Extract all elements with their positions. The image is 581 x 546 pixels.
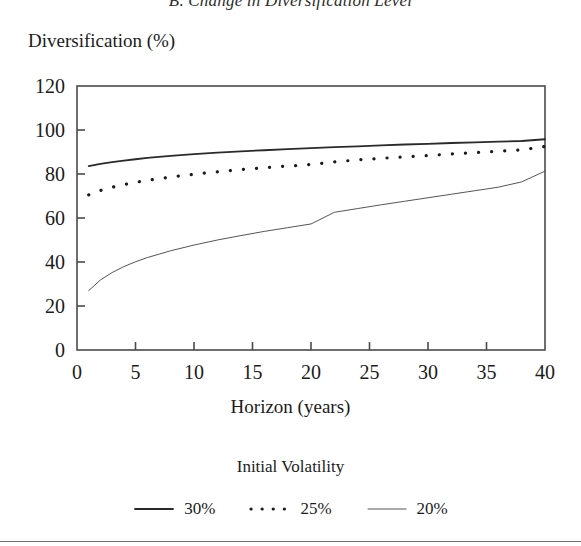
figure-panel: B. Change in Diversification Level Diver… bbox=[0, 0, 581, 546]
x-tick-label: 35 bbox=[477, 361, 497, 383]
legend-item-20pct[interactable]: 20% bbox=[366, 500, 448, 517]
legend-label: 30% bbox=[184, 500, 215, 517]
legend-item-30pct[interactable]: 30% bbox=[133, 500, 215, 517]
legend: 30%25%20% bbox=[0, 500, 581, 517]
y-tick-label: 100 bbox=[35, 119, 65, 141]
legend-label: 20% bbox=[417, 500, 448, 517]
y-tick-label: 80 bbox=[45, 163, 65, 185]
x-tick-label: 20 bbox=[301, 361, 321, 383]
legend-title: Initial Volatility bbox=[0, 457, 581, 477]
x-tick-label: 10 bbox=[184, 361, 204, 383]
x-tick-label: 15 bbox=[243, 361, 263, 383]
x-tick-label: 30 bbox=[418, 361, 438, 383]
legend-swatch-solid-thin bbox=[366, 503, 408, 515]
x-tick-label: 40 bbox=[535, 361, 555, 383]
y-tick-label: 0 bbox=[55, 339, 65, 361]
plot-frame bbox=[77, 86, 545, 350]
series-line-25pct bbox=[89, 147, 545, 195]
y-tick-label: 40 bbox=[45, 251, 65, 273]
x-tick-label: 0 bbox=[72, 361, 82, 383]
series-line-30pct bbox=[89, 139, 545, 166]
series-line-20pct bbox=[89, 171, 545, 290]
x-axis-title: Horizon (years) bbox=[0, 396, 581, 418]
x-tick-label: 5 bbox=[131, 361, 141, 383]
legend-label: 25% bbox=[300, 500, 331, 517]
y-tick-label: 20 bbox=[45, 295, 65, 317]
legend-swatch-dotted bbox=[249, 503, 291, 515]
x-tick-label: 25 bbox=[360, 361, 380, 383]
y-tick-label: 120 bbox=[35, 75, 65, 97]
bottom-rule bbox=[0, 541, 581, 542]
legend-swatch-solid-thick bbox=[133, 503, 175, 515]
y-tick-label: 60 bbox=[45, 207, 65, 229]
plot-area: 0204060801001200510152025303540 bbox=[0, 0, 581, 400]
legend-item-25pct[interactable]: 25% bbox=[249, 500, 331, 517]
